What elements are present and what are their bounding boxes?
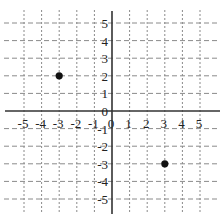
x-tick-label: 1: [125, 116, 132, 131]
x-tick-label: 0: [108, 116, 115, 131]
y-tick-label: -4: [97, 174, 108, 189]
y-tick-label: 3: [102, 51, 109, 66]
coordinate-plane: -5-4-3-2-1012345 -5-4-3-2-1012345: [0, 0, 220, 214]
data-point: [161, 160, 168, 167]
y-tick-label: -3: [97, 157, 108, 172]
x-tick-label: 5: [196, 116, 203, 131]
x-tick-label: -3: [53, 116, 64, 131]
x-tick-label: -2: [70, 116, 81, 131]
y-tick-label: -5: [97, 192, 108, 207]
x-tick-label: 2: [143, 116, 150, 131]
y-tick-label: 0: [102, 104, 109, 119]
y-tick-label: 2: [102, 69, 109, 84]
x-tick-label: -4: [35, 116, 46, 131]
y-tick-label: -2: [97, 139, 108, 154]
y-tick-label: 1: [102, 86, 109, 101]
y-tick-label: 4: [102, 34, 109, 49]
y-tick-label: 5: [102, 16, 109, 31]
x-tick-label: 3: [161, 116, 168, 131]
axes: [5, 11, 220, 214]
y-tick-label: -1: [97, 122, 108, 137]
data-point: [56, 72, 63, 79]
x-tick-label: 4: [178, 116, 185, 131]
x-tick-label: -5: [18, 116, 29, 131]
